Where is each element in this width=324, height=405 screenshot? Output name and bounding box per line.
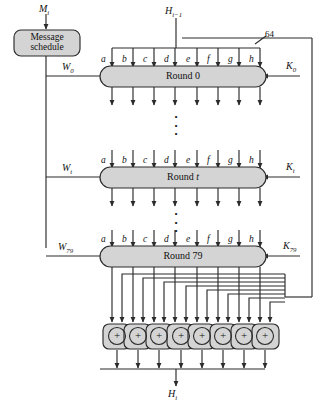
label-chaining-input: Hi−1 bbox=[165, 6, 182, 19]
state-label-c: c bbox=[143, 156, 147, 166]
state-label-g: g bbox=[228, 55, 233, 65]
state-label-b: b bbox=[122, 156, 127, 166]
diagram-blocks bbox=[0, 0, 324, 405]
state-label-g: g bbox=[228, 235, 233, 245]
state-label-e: e bbox=[186, 235, 190, 245]
label-message-block: Mi bbox=[39, 4, 49, 17]
state-label-a: a bbox=[101, 55, 106, 65]
label-chaining-output: Hi bbox=[168, 389, 177, 402]
message-schedule-label: Messageschedule bbox=[14, 33, 80, 53]
adder-symbol: + bbox=[129, 330, 147, 342]
ellipsis-rounds-upper: ••• bbox=[169, 113, 183, 139]
adder-symbol: + bbox=[108, 330, 126, 342]
adder-symbol: + bbox=[172, 330, 190, 342]
round0-label: Round 0 bbox=[100, 71, 266, 82]
adder-symbol: + bbox=[193, 330, 211, 342]
label-k79: K79 bbox=[283, 241, 296, 254]
adder-symbol: + bbox=[214, 330, 232, 342]
label-w79: W79 bbox=[58, 242, 73, 255]
state-label-c: c bbox=[143, 55, 147, 65]
adder-symbol: + bbox=[235, 330, 253, 342]
label-kt: Kt bbox=[286, 162, 295, 175]
round79-label: Round 79 bbox=[100, 251, 266, 262]
state-label-g: g bbox=[228, 156, 233, 166]
roundt-label: Round t bbox=[100, 172, 266, 183]
state-label-e: e bbox=[186, 156, 190, 166]
bitwidth-label: 64 bbox=[265, 30, 274, 39]
state-label-c: c bbox=[143, 235, 147, 245]
state-label-b: b bbox=[122, 235, 127, 245]
state-label-h: h bbox=[249, 235, 254, 245]
label-wt: Wt bbox=[62, 163, 72, 176]
state-label-d: d bbox=[164, 156, 169, 166]
adder-symbol: + bbox=[256, 330, 274, 342]
state-label-f: f bbox=[207, 235, 210, 245]
state-label-d: d bbox=[164, 235, 169, 245]
state-label-h: h bbox=[249, 55, 254, 65]
state-label-a: a bbox=[101, 156, 106, 166]
state-label-a: a bbox=[101, 235, 106, 245]
sha512-round-diagram: Mi Hi−1 64 Messageschedule W0 Wt W79 K0 … bbox=[0, 0, 324, 405]
state-label-e: e bbox=[186, 55, 190, 65]
state-label-f: f bbox=[207, 156, 210, 166]
state-label-f: f bbox=[207, 55, 210, 65]
label-w0: W0 bbox=[62, 62, 74, 75]
adder-symbol: + bbox=[150, 330, 168, 342]
state-label-h: h bbox=[249, 156, 254, 166]
ellipsis-rounds-lower: ••• bbox=[169, 210, 183, 236]
label-k0: K0 bbox=[286, 61, 296, 74]
state-label-d: d bbox=[164, 55, 169, 65]
state-label-b: b bbox=[122, 55, 127, 65]
